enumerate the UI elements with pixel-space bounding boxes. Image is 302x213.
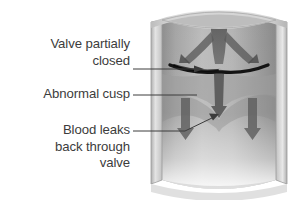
label-valve-partially-closed: Valve partially closed xyxy=(0,36,130,69)
figure-canvas: Valve partially closed Abnormal cusp Blo… xyxy=(0,0,302,213)
label-abnormal-cusp: Abnormal cusp xyxy=(0,86,130,103)
label-group: Valve partially closed Abnormal cusp Blo… xyxy=(0,0,130,213)
label-blood-leaks-back: Blood leaks back through valve xyxy=(0,122,130,172)
leader-arrow-valve xyxy=(194,66,204,73)
leader-arrow-blood xyxy=(209,114,219,121)
leader-line-blood-angled xyxy=(185,117,214,131)
